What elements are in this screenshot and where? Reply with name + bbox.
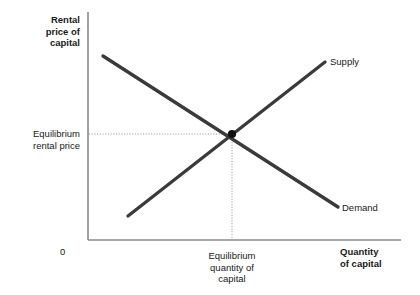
supply-curve bbox=[128, 62, 325, 216]
x-axis-title: Quantity of capital bbox=[340, 246, 414, 269]
equilibrium-quantity-label: Equilibrium quantity of capital bbox=[186, 250, 278, 285]
y-axis-title: Rental price of capital bbox=[8, 14, 80, 49]
origin-label: 0 bbox=[60, 246, 65, 258]
supply-demand-chart: Rental price of capital Quantity of capi… bbox=[0, 0, 420, 295]
equilibrium-rental-price-label: Equilibrium rental price bbox=[4, 128, 80, 151]
demand-curve-label: Demand bbox=[342, 202, 378, 214]
supply-curve-label: Supply bbox=[330, 56, 359, 68]
equilibrium-point bbox=[228, 130, 236, 138]
